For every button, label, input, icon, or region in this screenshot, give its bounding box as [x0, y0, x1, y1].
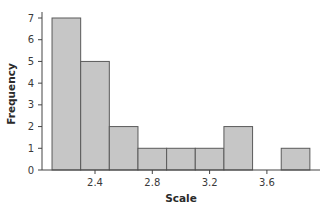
histogram-bar	[224, 127, 253, 170]
histogram-bars	[52, 18, 310, 170]
y-tick-label: 1	[28, 143, 34, 154]
y-tick-label: 3	[28, 99, 34, 110]
y-tick-label: 0	[28, 165, 34, 176]
x-tick-label: 2.4	[87, 177, 103, 188]
histogram-bar	[195, 148, 224, 170]
y-axis-label: Frequency	[5, 63, 17, 125]
x-tick-label: 3.2	[202, 177, 218, 188]
x-axis-label: Scale	[165, 192, 197, 204]
x-tick-label: 2.8	[144, 177, 160, 188]
x-axis-ticks: 2.42.83.23.6	[87, 170, 275, 188]
histogram-bar	[167, 148, 196, 170]
y-axis-ticks: 01234567	[28, 13, 42, 176]
histogram-bar	[109, 127, 138, 170]
histogram-bar	[138, 148, 167, 170]
y-tick-label: 2	[28, 121, 34, 132]
y-tick-label: 7	[28, 13, 34, 24]
histogram-chart: 01234567 2.42.83.23.6 Scale Frequency	[0, 0, 324, 210]
y-tick-label: 4	[28, 78, 34, 89]
histogram-bar	[52, 18, 81, 170]
histogram-bar	[81, 61, 110, 170]
x-tick-label: 3.6	[259, 177, 275, 188]
histogram-bar	[281, 148, 310, 170]
y-tick-label: 5	[28, 56, 34, 67]
y-tick-label: 6	[28, 34, 34, 45]
